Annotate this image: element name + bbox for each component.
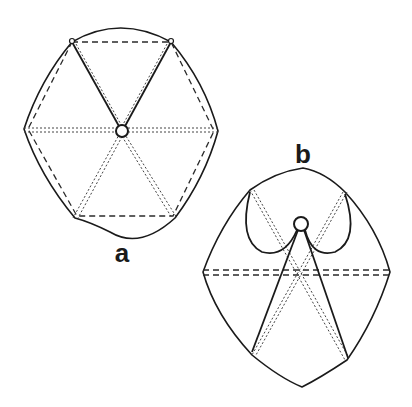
panel-a-joint [169,39,174,44]
panel-a-strut-solid-right [124,42,171,128]
panel-b: b [203,139,390,387]
panel-b-strut-solid-left [252,230,298,352]
panel-a-hub [116,125,128,137]
panel-a-strut-dotted [78,133,124,218]
panel-a-strut-solid-left [72,42,120,128]
panel-b-strut-solid-right [304,230,348,358]
panel-b-strut-dotted [252,192,343,355]
panel-b-outline [203,168,390,387]
panel-a-joint [70,39,75,44]
panel-a-strut-dotted [76,44,124,130]
panel-b-loop-right [305,194,351,253]
panel-a: a [24,28,218,268]
panel-a-strut-dotted [120,133,172,218]
panel-a-strut-dotted [73,133,120,218]
panel-a-strut-dotted [124,133,177,218]
panel-b-label: b [295,139,311,169]
panel-a-strut-dotted [120,44,167,130]
panel-b-loop-left [246,192,297,253]
panel-b-hub [294,217,308,231]
diagram-canvas: a b [0,0,412,407]
panel-a-label: a [115,238,130,268]
